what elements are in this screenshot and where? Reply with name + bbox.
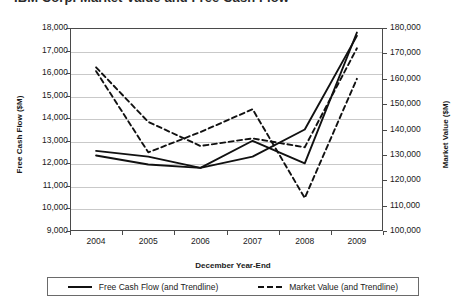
right-axis-tick-label: 180,000	[390, 23, 421, 32]
legend-item-free-cash-flow: Free Cash Flow (and Trendline)	[68, 282, 219, 292]
right-axis-tick-mark	[383, 28, 387, 29]
legend-swatch-solid-icon	[68, 286, 92, 288]
right-axis-tick-label: 130,000	[390, 150, 421, 159]
left-axis-tick-label: 9,000	[47, 226, 68, 235]
right-axis-tick-label: 140,000	[390, 125, 421, 134]
right-axis-tick-mark	[383, 104, 387, 105]
x-axis-tick-label: 2004	[74, 237, 118, 246]
chart-legend: Free Cash Flow (and Trendline) Market Va…	[47, 277, 419, 296]
x-axis-tick-mark	[70, 231, 71, 235]
chart-container: IBM Corp. Market Value and Free Cash Flo…	[0, 0, 466, 300]
left-axis-tick-label: 18,000	[42, 23, 68, 32]
left-axis-tick-label: 11,000	[43, 181, 68, 190]
series-line	[96, 71, 357, 198]
left-axis-tick-label: 14,000	[42, 113, 68, 122]
left-axis-tick-label: 15,000	[42, 91, 68, 100]
left-axis-tick-label: 17,000	[42, 46, 68, 55]
x-axis-title: December Year-End	[0, 261, 466, 270]
series-line	[96, 33, 357, 168]
series-layer	[70, 28, 383, 231]
chart-title: IBM Corp. Market Value and Free Cash Flo…	[14, 0, 289, 5]
right-axis-tick-label: 150,000	[390, 99, 421, 108]
legend-label-free-cash-flow: Free Cash Flow (and Trendline)	[99, 282, 219, 292]
x-axis-tick-label: 2008	[283, 237, 327, 246]
right-axis-tick-mark	[383, 206, 387, 207]
right-axis-tick-label: 120,000	[390, 175, 421, 184]
left-axis-tick-label: 16,000	[42, 68, 68, 77]
left-axis-tick-label: 13,000	[42, 136, 68, 145]
right-axis-tick-mark	[383, 155, 387, 156]
x-axis-tick-label: 2006	[178, 237, 222, 246]
legend-swatch-dashed-icon	[258, 286, 282, 288]
right-axis-tick-mark	[383, 180, 387, 181]
x-axis-tick-mark	[279, 231, 280, 235]
legend-item-market-value: Market Value (and Trendline)	[258, 282, 398, 292]
right-axis-title: Market Value ($M)	[441, 75, 450, 195]
left-axis-title: Free Cash Flow ($M)	[15, 75, 24, 195]
right-axis-tick-mark	[383, 53, 387, 54]
left-axis-tick-label: 10,000	[42, 203, 68, 212]
right-axis-tick-mark	[383, 79, 387, 80]
right-axis-tick-label: 170,000	[390, 48, 421, 57]
x-axis-tick-label: 2007	[231, 237, 275, 246]
right-axis-tick-mark	[383, 130, 387, 131]
x-axis-tick-label: 2009	[335, 237, 379, 246]
x-axis-tick-mark	[383, 231, 384, 235]
left-axis-tick-label: 12,000	[42, 158, 68, 167]
x-axis-tick-mark	[174, 231, 175, 235]
right-axis-tick-label: 110,000	[390, 201, 420, 210]
series-trendline	[96, 36, 357, 168]
x-axis-tick-mark	[122, 231, 123, 235]
x-axis-tick-mark	[331, 231, 332, 235]
legend-label-market-value: Market Value (and Trendline)	[289, 282, 398, 292]
x-axis-tick-mark	[227, 231, 228, 235]
right-axis-tick-label: 100,000	[390, 226, 421, 235]
x-axis-tick-label: 2005	[126, 237, 170, 246]
right-axis-tick-label: 160,000	[390, 74, 421, 83]
